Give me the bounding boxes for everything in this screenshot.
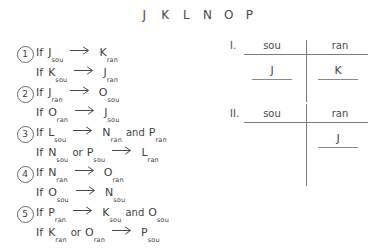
term-subscript: ran bbox=[55, 216, 66, 224]
term-subscript: ran bbox=[56, 176, 67, 184]
rule-keyword-if: If bbox=[36, 186, 43, 199]
term-subscript: sou bbox=[56, 156, 68, 164]
rule-keyword-if: If bbox=[36, 86, 43, 99]
grid-i-entry-sou[interactable]: J bbox=[252, 64, 292, 80]
header-letter: N bbox=[203, 8, 212, 22]
consequent-connective: and bbox=[125, 207, 144, 218]
logic-term: Nsou bbox=[48, 146, 68, 161]
term-base: O bbox=[85, 226, 94, 239]
logic-term: Pran bbox=[48, 206, 66, 221]
rule-keyword-if: If bbox=[36, 126, 43, 139]
arrow-right-icon bbox=[73, 126, 95, 135]
grid-ii: II. sou ran J bbox=[230, 108, 378, 188]
term-subscript: ran bbox=[94, 236, 105, 244]
logic-term: Kran bbox=[99, 46, 118, 61]
grid-ii-column-header-sou: sou bbox=[246, 108, 298, 119]
arrow-right-icon bbox=[70, 46, 92, 55]
grid-ii-column-header-ran: ran bbox=[314, 108, 366, 119]
term-base: N bbox=[102, 126, 110, 139]
grid-i-label: I. bbox=[230, 40, 236, 51]
arrow-right-icon bbox=[70, 86, 92, 95]
worksheet-page: JKLNOP 1IfJsouKranIfKsouJran2IfJranOsouI… bbox=[0, 0, 385, 248]
grid-ii-vertical-divider bbox=[306, 104, 307, 186]
logic-term: Nran bbox=[102, 126, 122, 141]
arrow-right-icon bbox=[75, 166, 97, 175]
rule-text: IfNranOran bbox=[36, 166, 126, 181]
grid-i-column-header-sou: sou bbox=[246, 40, 298, 51]
term-subscript: ran bbox=[155, 136, 166, 144]
logic-term: Kran bbox=[48, 226, 67, 241]
header-letter: J bbox=[140, 8, 149, 22]
logic-term: Jran bbox=[48, 86, 63, 101]
logic-term: Nran bbox=[48, 166, 68, 181]
rule-row: IfNsouorPsouLran bbox=[14, 144, 229, 164]
rule-row: IfKranorOranPsou bbox=[14, 224, 229, 244]
rule-number-badge: 3 bbox=[17, 126, 34, 143]
rule-row: IfOsouNsou bbox=[14, 184, 229, 204]
term-subscript: ran bbox=[111, 136, 122, 144]
term-subscript: sou bbox=[93, 156, 105, 164]
logic-term: Oran bbox=[104, 166, 124, 181]
rule-text: IfPranKsouandOsou bbox=[36, 206, 171, 221]
logic-term: Oran bbox=[48, 106, 68, 121]
rule-row: 1IfJsouKran bbox=[14, 44, 229, 64]
rule-number-badge: 1 bbox=[17, 46, 34, 63]
logic-term: Osou bbox=[99, 86, 120, 101]
term-base: L bbox=[141, 146, 147, 159]
term-subscript: sou bbox=[107, 96, 119, 104]
term-subscript: sou bbox=[157, 216, 169, 224]
term-subscript: ran bbox=[51, 96, 62, 104]
rule-number-badge: 2 bbox=[17, 86, 34, 103]
logic-term: Osou bbox=[48, 186, 69, 201]
antecedent-connective: or bbox=[72, 147, 82, 158]
rule-text: IfLsouNranandPran bbox=[36, 126, 169, 141]
arrow-right-icon bbox=[74, 66, 96, 75]
term-subscript: ran bbox=[112, 176, 123, 184]
rule-text: IfKranorOranPsou bbox=[36, 226, 162, 241]
rule-row: 2IfJranOsou bbox=[14, 84, 229, 104]
arrow-right-icon bbox=[75, 106, 97, 115]
rule-text: IfOsouNsou bbox=[36, 186, 127, 201]
logic-term: Lsou bbox=[48, 126, 66, 141]
rule-keyword-if: If bbox=[36, 46, 43, 59]
rule-row: IfKsouJran bbox=[14, 64, 229, 84]
arrow-right-icon bbox=[73, 206, 95, 215]
term-subscript: sou bbox=[148, 236, 160, 244]
rule-row: 4IfNranOran bbox=[14, 164, 229, 184]
term-base: O bbox=[48, 186, 57, 199]
rule-row: 5IfPranKsouandOsou bbox=[14, 204, 229, 224]
rules-list: 1IfJsouKranIfKsouJran2IfJranOsouIfOranJs… bbox=[14, 44, 229, 244]
grid-i-column-header-ran: ran bbox=[314, 40, 366, 51]
rule-text: IfKsouJran bbox=[36, 66, 120, 81]
rule-number-slot: 4 bbox=[14, 166, 36, 183]
header-letter: P bbox=[245, 8, 254, 22]
term-subscript: ran bbox=[107, 76, 118, 84]
rule-keyword-if: If bbox=[36, 106, 43, 119]
header-letter: O bbox=[224, 8, 233, 22]
header-letter: K bbox=[161, 8, 170, 22]
rule-number-slot: 3 bbox=[14, 126, 36, 143]
grid-i-inner: sou ran J K bbox=[244, 40, 368, 102]
logic-term: Jsou bbox=[104, 106, 119, 121]
term-subscript: sou bbox=[55, 76, 67, 84]
logic-term: Psou bbox=[87, 146, 106, 161]
grid-i-entry-ran[interactable]: K bbox=[318, 64, 358, 80]
term-subscript: ran bbox=[107, 56, 118, 64]
arrow-right-icon bbox=[112, 146, 134, 155]
term-base: P bbox=[48, 206, 55, 219]
term-base: O bbox=[48, 106, 57, 119]
grid-ii-label: II. bbox=[230, 108, 239, 119]
rule-number-slot: 5 bbox=[14, 206, 36, 223]
term-base: P bbox=[141, 226, 148, 239]
logic-term: Ksou bbox=[48, 66, 67, 81]
grid-ii-entry-ran[interactable]: J bbox=[318, 132, 358, 148]
logic-term: Jsou bbox=[48, 46, 63, 61]
grid-i-vertical-divider bbox=[306, 40, 307, 102]
rule-text: IfOranJsou bbox=[36, 106, 122, 121]
term-subscript: sou bbox=[57, 196, 69, 204]
rule-number-slot: 2 bbox=[14, 86, 36, 103]
logic-term: Oran bbox=[85, 226, 105, 241]
rule-row: 3IfLsouNranandPran bbox=[14, 124, 229, 144]
arrow-right-icon bbox=[112, 226, 134, 235]
rule-row: IfOranJsou bbox=[14, 104, 229, 124]
